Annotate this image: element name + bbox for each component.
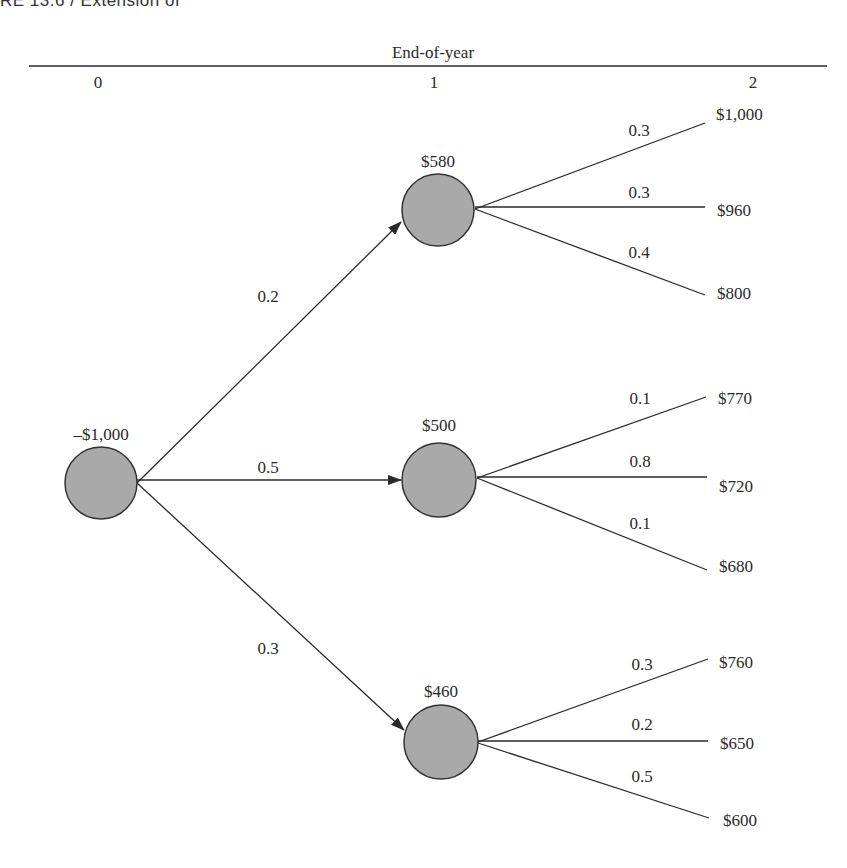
outcome-value-2-1: $770	[718, 389, 752, 408]
branch-580-800	[475, 209, 705, 295]
node-580-label: $580	[421, 152, 455, 171]
node-460-label: $460	[424, 682, 458, 701]
outcome-prob-3-3: 0.5	[631, 767, 652, 786]
outcome-prob-1-1: 0.3	[628, 121, 649, 140]
outcome-value-1-2: $960	[717, 201, 751, 220]
outcome-value-3-3: $600	[723, 811, 757, 830]
outcome-prob-2-1: 0.1	[629, 389, 650, 408]
period-2-label: 2	[749, 73, 758, 92]
branch-460-760	[478, 659, 708, 742]
outcome-prob-3-2: 0.2	[631, 715, 652, 734]
outcome-prob-2-3: 0.1	[629, 514, 650, 533]
node-580	[402, 174, 474, 246]
outcome-value-2-3: $680	[719, 557, 753, 576]
outcome-prob-3-1: 0.3	[631, 655, 652, 674]
outcome-prob-2-2: 0.8	[629, 452, 650, 471]
outcome-value-1-1: $1,000	[716, 105, 763, 124]
branch-prob-3: 0.3	[257, 639, 278, 658]
outcome-value-3-1: $760	[719, 653, 753, 672]
period-0-label: 0	[94, 73, 103, 92]
timeline-title: End-of-year	[392, 43, 474, 62]
outcome-value-3-2: $650	[720, 734, 754, 753]
branch-500-770	[477, 397, 706, 478]
node-500-label: $500	[422, 416, 456, 435]
decision-tree-diagram: End-of-year 0 1 2 0.2 0.5 0.3 0.3 0.3 0.…	[0, 0, 847, 868]
branch-prob-1: 0.2	[257, 287, 278, 306]
branch-500-680	[477, 478, 707, 570]
root-node	[65, 447, 137, 519]
outcome-value-2-2: $720	[719, 477, 753, 496]
branch-580-1000	[475, 123, 705, 209]
arrow-root-to-node-460	[137, 483, 404, 730]
branch-460-600	[478, 743, 709, 818]
node-500	[402, 443, 476, 517]
root-node-label: –$1,000	[72, 425, 128, 444]
outcome-prob-1-2: 0.3	[628, 183, 649, 202]
arrow-root-to-node-580	[137, 222, 401, 483]
node-460	[404, 705, 478, 779]
period-1-label: 1	[430, 73, 439, 92]
branch-prob-2: 0.5	[257, 458, 278, 477]
outcome-value-1-3: $800	[717, 284, 751, 303]
outcome-prob-1-3: 0.4	[628, 243, 650, 262]
